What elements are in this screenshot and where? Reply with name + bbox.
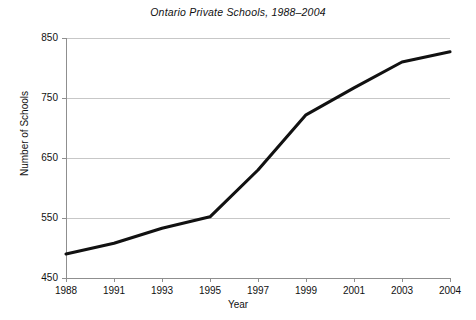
chart-container: Ontario Private Schools, 1988–2004 Numbe… [0,0,476,320]
x-tick-label: 1997 [235,285,281,296]
x-tick-label: 1991 [91,285,137,296]
x-tick-label: 2003 [379,285,425,296]
y-tick-label: 650 [16,152,58,163]
x-tick-label: 1999 [283,285,329,296]
x-tick-label: 2001 [331,285,377,296]
y-tick-label: 550 [16,212,58,223]
x-tick-label: 1995 [187,285,233,296]
x-tick-label: 2004 [427,285,473,296]
x-tick-label: 1988 [43,285,89,296]
plot-area [0,0,476,320]
y-tick-label: 450 [16,272,58,283]
y-tick-label: 850 [16,32,58,43]
x-tick-label: 1993 [139,285,185,296]
data-series-line [66,52,450,254]
y-tick-label: 750 [16,92,58,103]
axis-tickmarks [62,39,451,283]
